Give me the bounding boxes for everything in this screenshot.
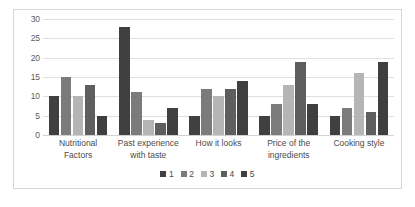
legend-swatch-icon xyxy=(221,171,227,177)
legend-swatch-icon xyxy=(201,171,207,177)
bar-group xyxy=(324,19,394,135)
legend-item[interactable]: 4 xyxy=(221,170,234,179)
bar-series-3[interactable] xyxy=(213,96,224,135)
bar-series-5[interactable] xyxy=(237,81,248,135)
axis-baseline xyxy=(43,135,394,136)
legend-label: 3 xyxy=(209,170,214,179)
chart-plot-wrapper: 051015202530 Nutritional FactorsPast exp… xyxy=(14,10,401,188)
bar-series-1[interactable] xyxy=(330,116,341,135)
chart-container: 051015202530 Nutritional FactorsPast exp… xyxy=(13,9,402,189)
y-axis-tick: 15 xyxy=(31,73,40,82)
bar-series-3[interactable] xyxy=(73,96,84,135)
legend-item[interactable]: 1 xyxy=(160,170,173,179)
bar-series-1[interactable] xyxy=(49,96,60,135)
legend-label: 2 xyxy=(189,170,194,179)
category-label: Price of the ingredients xyxy=(254,138,324,161)
y-axis-tick: 20 xyxy=(31,53,40,62)
bar-series-2[interactable] xyxy=(271,104,282,135)
bar-series-1[interactable] xyxy=(189,116,200,135)
legend-label: 4 xyxy=(230,170,235,179)
chart-legend: 12345 xyxy=(14,170,401,179)
category-label: Nutritional Factors xyxy=(43,138,113,161)
bar-series-5[interactable] xyxy=(167,108,178,135)
legend-label: 1 xyxy=(169,170,174,179)
bar-series-3[interactable] xyxy=(143,120,154,135)
legend-item[interactable]: 2 xyxy=(181,170,194,179)
bar-series-5[interactable] xyxy=(307,104,318,135)
bar-series-1[interactable] xyxy=(119,27,130,135)
bar-series-2[interactable] xyxy=(131,92,142,135)
y-axis-tick: 10 xyxy=(31,92,40,101)
bar-group xyxy=(43,19,113,135)
bar-group xyxy=(183,19,253,135)
legend-item[interactable]: 3 xyxy=(201,170,214,179)
bar-series-3[interactable] xyxy=(283,85,294,135)
category-axis-labels: Nutritional FactorsPast experience with … xyxy=(43,138,394,161)
bar-groups xyxy=(43,19,394,135)
y-axis-tick: 25 xyxy=(31,34,40,43)
bar-series-4[interactable] xyxy=(366,112,377,135)
bar-series-1[interactable] xyxy=(259,116,270,135)
y-axis: 051015202530 xyxy=(18,19,40,135)
bar-series-3[interactable] xyxy=(354,73,365,135)
legend-swatch-icon xyxy=(241,171,247,177)
legend-item[interactable]: 5 xyxy=(241,170,254,179)
bar-series-2[interactable] xyxy=(201,89,212,135)
bar-series-4[interactable] xyxy=(85,85,96,135)
legend-swatch-icon xyxy=(160,171,166,177)
legend-swatch-icon xyxy=(181,171,187,177)
bar-series-2[interactable] xyxy=(61,77,72,135)
plot-area xyxy=(43,19,394,135)
y-axis-tick: 30 xyxy=(31,15,40,24)
bar-series-4[interactable] xyxy=(295,62,306,135)
category-label: How it looks xyxy=(183,138,253,161)
y-axis-tick: 0 xyxy=(35,131,40,140)
bar-group xyxy=(113,19,183,135)
y-axis-tick: 5 xyxy=(35,111,40,120)
bar-series-5[interactable] xyxy=(97,116,108,135)
bar-series-5[interactable] xyxy=(378,62,389,135)
category-label: Past experience with taste xyxy=(113,138,183,161)
bar-group xyxy=(254,19,324,135)
bar-series-4[interactable] xyxy=(155,123,166,135)
bar-series-4[interactable] xyxy=(225,89,236,135)
legend-label: 5 xyxy=(250,170,255,179)
category-label: Cooking style xyxy=(324,138,394,161)
bar-series-2[interactable] xyxy=(342,108,353,135)
